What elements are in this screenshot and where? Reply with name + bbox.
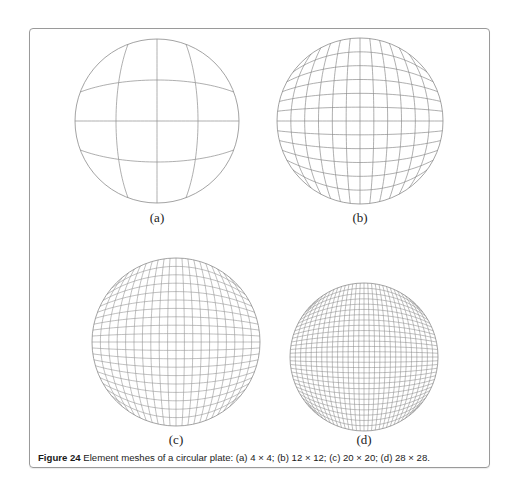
panel-label-b: (b) [352,210,367,226]
figure-number: Figure 24 [38,452,81,463]
mesh-panel-c [92,258,260,426]
panel-label-c: (c) [169,432,183,448]
panel-label-a: (a) [150,210,164,226]
mesh-panel-d [290,283,438,431]
mesh-panel-b [277,38,443,204]
figure-caption: Figure 24 Element meshes of a circular p… [38,452,430,463]
mesh-figure [0,0,518,496]
caption-text: Element meshes of a circular plate: (a) … [81,452,430,463]
panel-label-d: (d) [356,432,371,448]
mesh-panel-a [75,39,239,203]
